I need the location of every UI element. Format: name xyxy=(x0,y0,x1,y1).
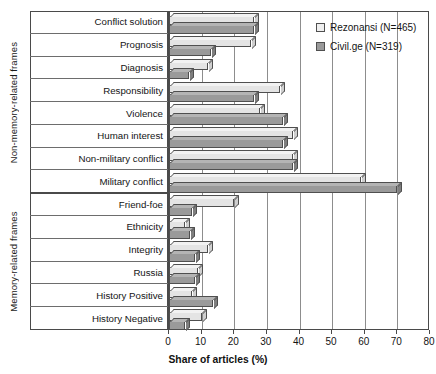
bar xyxy=(169,299,213,308)
bar-top-face xyxy=(170,182,402,186)
bar-side-face xyxy=(235,195,239,208)
bar-top-face xyxy=(170,113,288,117)
category-label: Ethnicity xyxy=(30,216,168,239)
bar-top-face xyxy=(170,91,259,95)
category-label: Integrity xyxy=(30,239,168,262)
tick-10 xyxy=(201,330,202,334)
bar-side-face xyxy=(209,59,213,72)
tick-label: 10 xyxy=(187,336,215,347)
legend-label: Civil.ge (N=319) xyxy=(330,41,402,52)
bar-top-face xyxy=(170,241,213,245)
bar xyxy=(169,71,189,80)
gridline-40 xyxy=(300,12,301,329)
bar-side-face xyxy=(294,127,298,140)
tick-70 xyxy=(396,330,397,334)
category-label: Responsibility xyxy=(30,79,168,102)
category-label: Conflict solution xyxy=(30,11,168,34)
bar-top-face xyxy=(170,13,259,17)
bar-top-face xyxy=(170,82,285,86)
tick-label: 0 xyxy=(154,336,182,347)
category-label: Military conflict xyxy=(30,171,168,194)
bar xyxy=(169,276,195,285)
category-label: Human interest xyxy=(30,125,168,148)
category-label: Non-military conflict xyxy=(30,148,168,171)
tick-30 xyxy=(266,330,267,334)
bar-side-face xyxy=(284,113,288,126)
gridline-50 xyxy=(332,12,333,329)
tick-label: 60 xyxy=(350,336,378,347)
tick-label: 30 xyxy=(252,336,280,347)
legend-label: Rezonansi (N=465) xyxy=(330,22,416,33)
gridline-20 xyxy=(234,12,235,329)
tick-label: 50 xyxy=(317,336,345,347)
bar-top-face xyxy=(170,36,256,40)
legend-item: Civil.ge (N=319) xyxy=(316,39,416,54)
bar-side-face xyxy=(255,22,259,35)
bar-side-face xyxy=(209,241,213,254)
bar xyxy=(169,253,195,262)
bar-side-face xyxy=(196,273,200,286)
bar-side-face xyxy=(203,309,207,322)
bar-top-face xyxy=(170,173,366,177)
legend-swatch-dark xyxy=(316,42,325,51)
bar xyxy=(169,230,190,239)
gridline-70 xyxy=(397,12,398,329)
tick-40 xyxy=(299,330,300,334)
bar-side-face xyxy=(214,296,218,309)
bar xyxy=(169,48,211,57)
bar-top-face xyxy=(170,104,265,108)
x-axis-title: Share of articles (%) xyxy=(0,354,436,365)
category-label: History Negative xyxy=(30,307,168,330)
tick-label: 20 xyxy=(219,336,247,347)
tick-label: 40 xyxy=(285,336,313,347)
legend-item: Rezonansi (N=465) xyxy=(316,20,416,35)
tick-label: 80 xyxy=(415,336,436,347)
category-label: Diagnosis xyxy=(30,57,168,80)
plot-area xyxy=(168,11,429,330)
gridline-60 xyxy=(365,12,366,329)
tick-80 xyxy=(429,330,430,334)
bar-side-face xyxy=(193,204,197,217)
group-axis-label: Non-memory-related frames xyxy=(6,11,20,193)
bar xyxy=(169,321,185,330)
bar xyxy=(169,25,254,34)
bar xyxy=(169,139,283,148)
bar-side-face xyxy=(196,250,200,263)
bar-side-face xyxy=(294,159,298,172)
legend-swatch-light xyxy=(316,23,325,32)
bar-top-face xyxy=(170,150,298,154)
bar-top-face xyxy=(170,136,288,140)
bar xyxy=(169,162,293,171)
bar xyxy=(169,185,397,194)
chart-legend: Rezonansi (N=465)Civil.ge (N=319) xyxy=(316,20,416,58)
category-label: Prognosis xyxy=(30,34,168,57)
bar-side-face xyxy=(284,136,288,149)
bar xyxy=(169,207,192,216)
category-label: Violence xyxy=(30,102,168,125)
tick-0 xyxy=(168,330,169,334)
bar-side-face xyxy=(186,318,190,331)
bar-side-face xyxy=(398,182,402,195)
bar-top-face xyxy=(170,309,207,313)
bar-top-face xyxy=(170,22,259,26)
category-label: History Positive xyxy=(30,284,168,307)
bar-top-face xyxy=(170,159,298,163)
bar-top-face xyxy=(170,296,218,300)
bar-top-face xyxy=(170,195,239,199)
group-axis-label: Memory-related frames xyxy=(6,193,20,330)
bar-side-face xyxy=(191,227,195,240)
category-label: Russia xyxy=(30,262,168,285)
gridline-30 xyxy=(267,12,268,329)
bar-top-face xyxy=(170,127,298,131)
tick-label: 70 xyxy=(382,336,410,347)
tick-50 xyxy=(331,330,332,334)
tick-60 xyxy=(364,330,365,334)
grouped-bar-chart: Non-memory-related framesMemory-related … xyxy=(0,0,436,374)
bar xyxy=(169,94,254,103)
bar-top-face xyxy=(170,45,216,49)
bar xyxy=(169,116,283,125)
bar-top-face xyxy=(170,59,213,63)
bar-side-face xyxy=(212,45,216,58)
tick-20 xyxy=(233,330,234,334)
category-label: Friend-foe xyxy=(30,193,168,216)
